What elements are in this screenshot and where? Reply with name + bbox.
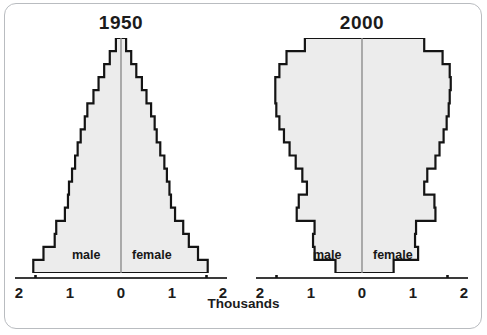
pyramid-svg-1950 [10, 38, 232, 273]
pyramid-bars-2000 [275, 38, 450, 273]
panel-title-2000: 2000 [251, 12, 473, 34]
panel-1950: 1950 male female 2 1 [10, 8, 232, 308]
female-label-1950: female [132, 248, 172, 262]
female-label-2000: female [373, 248, 413, 262]
male-label-1950: male [72, 248, 101, 262]
panel-title-1950: 1950 [10, 12, 232, 34]
pyramid-svg-2000 [251, 38, 473, 273]
population-pyramid-figure: 1950 male female 2 1 [0, 0, 487, 335]
panel-2000: 2000 male female 2 1 [251, 8, 473, 308]
pyramid-plot-1950 [10, 38, 232, 273]
x-axis-title: Thousands [0, 296, 487, 311]
pyramid-plot-2000 [251, 38, 473, 273]
panels-container: 1950 male female 2 1 [0, 0, 487, 335]
male-label-2000: male [313, 248, 342, 262]
pyramid-outline-2000 [275, 38, 450, 273]
